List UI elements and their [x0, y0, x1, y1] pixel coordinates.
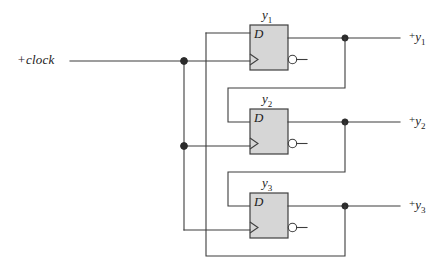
- output-label-y3: +y3: [409, 197, 426, 215]
- output-label-y1-sub: 1: [421, 37, 426, 47]
- flipflop-1-label: y1: [262, 7, 272, 25]
- circuit-svg: [0, 0, 448, 272]
- flipflop-1-label-sub: 1: [268, 15, 273, 25]
- output-label-y1: +y1: [409, 29, 426, 47]
- d-input-label-ff2: D: [254, 110, 263, 126]
- junction-clock-1: [181, 58, 188, 65]
- junction-clock-2: [181, 143, 188, 150]
- flipflop-2-label: y2: [262, 91, 272, 109]
- d-input-label-ff3: D: [254, 194, 263, 210]
- output-label-y3-sub: 3: [421, 205, 426, 215]
- circuit-diagram: +clock D D D y1 y2 y3 +y1 +y2 +y3: [0, 0, 448, 272]
- inversion-bubble-ff2: [288, 139, 296, 147]
- inversion-bubble-ff1: [288, 55, 296, 63]
- flipflop-2-label-sub: 2: [268, 99, 273, 109]
- clock-input-label: +clock: [17, 52, 54, 68]
- output-label-y2-sub: 2: [421, 121, 426, 131]
- flipflop-3-label-sub: 3: [268, 183, 273, 193]
- d-input-label-ff1: D: [254, 26, 263, 42]
- flipflop-3-label: y3: [262, 175, 272, 193]
- output-label-y2: +y2: [409, 113, 426, 131]
- inversion-bubble-ff3: [288, 223, 296, 231]
